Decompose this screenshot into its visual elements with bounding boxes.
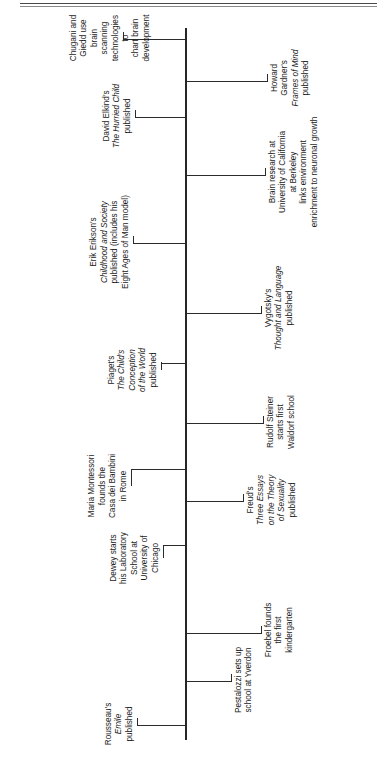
page-top-rule <box>20 3 377 4</box>
event-leader-stem <box>187 422 263 423</box>
timeline-event-caption: Maria Montessorifounds theCasa dei Bambi… <box>87 453 129 517</box>
caption-line: school at Yverdon <box>244 647 254 713</box>
event-leader-stem <box>163 544 185 545</box>
event-leader-stem <box>187 680 231 681</box>
event-leader-run <box>163 546 164 558</box>
caption-line: published <box>148 347 158 391</box>
caption-line: founds the <box>97 453 107 517</box>
timeline-event-caption: Freud'sThree Essayson the Theoryof Sexua… <box>246 474 298 525</box>
caption-line: Emile <box>114 702 124 745</box>
caption-line: technologies to <box>110 14 131 61</box>
timeline-canvas: Rousseau'sEmilepublishedPestalozzi sets … <box>9 14 369 754</box>
caption-line: Eight Ages of Man model) <box>120 195 130 289</box>
timeline-event-caption: Rudolf Steinerstarts firstWaldorf school <box>266 395 297 449</box>
event-leader-run <box>137 718 138 726</box>
caption-line: links environment <box>299 116 309 227</box>
caption-line: chart brain <box>131 14 141 61</box>
event-leader-stem <box>187 80 267 81</box>
caption-line: development <box>141 14 151 61</box>
caption-line: published <box>287 474 297 525</box>
caption-line: at Berkeley <box>288 116 298 227</box>
timeline-event-caption: Chugani and Giedd usebrain scanningtechn… <box>69 14 152 61</box>
caption-line: Brain research at <box>268 116 278 227</box>
caption-line: Maria Montessori <box>87 453 97 517</box>
caption-line: brain scanning <box>89 14 110 61</box>
event-leader-run <box>267 74 268 82</box>
caption-line: Conception <box>127 347 137 391</box>
caption-line: Pestalozzi sets up <box>234 647 244 713</box>
caption-line: David Elkind's <box>101 83 111 147</box>
event-leader-run <box>135 110 136 118</box>
caption-line: published <box>301 46 311 110</box>
timeline-event-caption: Brain research atUniversity of Californi… <box>268 116 320 227</box>
caption-line: Chugani and Giedd use <box>69 14 90 61</box>
event-leader-stem <box>133 242 185 243</box>
caption-line: Waldorf school <box>286 395 296 449</box>
caption-line: Childhood and Society <box>99 195 109 289</box>
event-leader-run <box>133 236 134 244</box>
caption-line: Freud's <box>246 474 256 525</box>
caption-line: Howard Gardner's <box>270 46 291 110</box>
caption-line: of the World <box>138 347 148 391</box>
caption-line: published <box>284 265 294 350</box>
caption-line: the first <box>274 602 284 657</box>
event-leader-run <box>263 416 264 424</box>
timeline-event-caption: Piaget'sThe Child'sConceptionof the Worl… <box>107 347 159 391</box>
event-leader-stem <box>161 362 185 363</box>
event-leader-stem <box>137 724 185 725</box>
event-leader-run <box>261 626 262 634</box>
page-top-rule-secondary <box>20 6 377 7</box>
caption-line: published (includes his <box>110 195 120 289</box>
caption-line: of Sexuality <box>277 474 287 525</box>
event-leader-run <box>131 470 132 486</box>
timeline-event-caption: Erik Erikson'sChildhood and Societypubli… <box>89 195 131 289</box>
timeline-event-caption: Dewey startshis LaboratorySchool atUnive… <box>109 532 161 584</box>
caption-line: kindergarten <box>284 602 294 657</box>
caption-line: Thought and Language <box>274 265 284 350</box>
timeline-event-caption: David Elkind'sThe Hurried Childpublished <box>101 83 132 147</box>
caption-line: School at <box>129 532 139 584</box>
caption-line: in Rome <box>118 453 128 517</box>
caption-line: Rousseau's <box>103 702 113 745</box>
timeline-event-caption: Howard Gardner'sFrames of Mindpublished <box>270 46 312 110</box>
caption-line: University of <box>140 532 150 584</box>
caption-line: Frames of Mind <box>290 46 300 110</box>
caption-line: enrichment to neuronal growth <box>309 116 319 227</box>
timeline-event-caption: Froebel foundsthe firstkindergarten <box>264 602 295 657</box>
event-leader-run <box>161 362 162 370</box>
caption-line: Three Essays <box>256 474 266 525</box>
caption-line: The Hurried Child <box>112 83 122 147</box>
caption-line: Dewey starts <box>109 532 119 584</box>
caption-line: Erik Erikson's <box>89 195 99 289</box>
caption-line: Froebel founds <box>264 602 274 657</box>
caption-line: The Child's <box>117 347 127 391</box>
event-leader-stem <box>187 174 265 175</box>
event-leader-stem <box>131 468 185 469</box>
event-leader-stem <box>187 312 261 313</box>
timeline-event-caption: Pestalozzi sets upschool at Yverdon <box>234 647 255 713</box>
timeline-event-caption: Rousseau'sEmilepublished <box>103 702 134 745</box>
event-leader-stem <box>135 116 185 117</box>
caption-line: starts first <box>276 395 286 449</box>
caption-line: published <box>124 702 134 745</box>
caption-line: University of California <box>278 116 288 227</box>
caption-line: Vygotsky's <box>264 265 274 350</box>
event-leader-stem <box>187 632 261 633</box>
caption-line: published <box>122 83 132 147</box>
event-leader-run <box>243 494 244 502</box>
caption-line: Rudolf Steiner <box>266 395 276 449</box>
event-leader-stem <box>187 500 243 501</box>
event-leader-run <box>231 674 232 682</box>
caption-line: on the Theory <box>266 474 276 525</box>
caption-line: Piaget's <box>107 347 117 391</box>
event-leader-run <box>265 168 266 176</box>
caption-line: his Laboratory <box>119 532 129 584</box>
timeline-event-caption: Vygotsky'sThought and Languagepublished <box>264 265 295 350</box>
event-leader-run <box>261 306 262 314</box>
caption-line: Casa dei Bambini <box>108 453 118 517</box>
caption-line: Chicago <box>150 532 160 584</box>
